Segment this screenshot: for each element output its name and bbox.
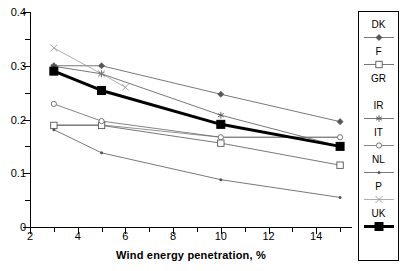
markers-F bbox=[51, 122, 344, 168]
data-point-open-square bbox=[375, 61, 381, 67]
legend-label: NL bbox=[372, 154, 385, 166]
series-DK bbox=[54, 66, 340, 122]
series-IT bbox=[54, 104, 340, 137]
legend-entry-GR[interactable]: GR bbox=[359, 73, 398, 98]
legend-swatch-F bbox=[360, 58, 398, 71]
legend-entry-DK[interactable]: DK bbox=[359, 19, 398, 44]
legend-label: DK bbox=[372, 19, 386, 31]
legend-swatch-P bbox=[360, 193, 398, 206]
markers-DK bbox=[51, 63, 343, 125]
data-point-diamond bbox=[375, 34, 381, 40]
legend-entry-F[interactable]: F bbox=[359, 46, 398, 71]
legend-label: P bbox=[375, 181, 382, 193]
legend-swatch-IR bbox=[360, 112, 398, 125]
legend-swatch-IT bbox=[360, 139, 398, 152]
legend-swatch-GR bbox=[360, 85, 398, 98]
data-point-dot bbox=[100, 151, 103, 154]
series-layer bbox=[0, 0, 403, 271]
data-point-dot bbox=[377, 171, 380, 174]
data-point-filled-square bbox=[336, 142, 344, 150]
legend-swatch-NL bbox=[360, 166, 398, 179]
legend-entry-NL[interactable]: NL bbox=[359, 154, 398, 179]
data-point-filled-square bbox=[50, 67, 58, 75]
legend-label: GR bbox=[371, 73, 386, 85]
data-point-open-circle bbox=[99, 119, 104, 124]
data-point-open-square bbox=[337, 162, 343, 168]
data-point-dot bbox=[339, 196, 342, 199]
chart-legend: DKFGRIRITNLPUK bbox=[358, 11, 399, 261]
legend-entry-IR[interactable]: IR bbox=[359, 100, 398, 125]
data-point-open-square bbox=[51, 122, 57, 128]
legend-swatch-UK bbox=[360, 220, 398, 233]
legend-entry-IT[interactable]: IT bbox=[359, 127, 398, 152]
legend-entry-UK[interactable]: UK bbox=[359, 208, 398, 233]
legend-label: F bbox=[375, 46, 381, 58]
legend-label: UK bbox=[372, 208, 386, 220]
data-point-filled-square bbox=[375, 223, 383, 231]
data-point-diamond bbox=[218, 91, 224, 97]
data-point-dot bbox=[219, 178, 222, 181]
data-point-diamond bbox=[337, 119, 343, 125]
data-point-filled-square bbox=[98, 86, 106, 94]
data-point-asterisk bbox=[218, 112, 224, 119]
x-axis-title: Wind energy penetration, % bbox=[30, 249, 352, 261]
data-point-diamond bbox=[98, 63, 104, 69]
markers-IR bbox=[51, 63, 343, 150]
data-point-open-square bbox=[218, 140, 224, 146]
data-point-open-circle bbox=[337, 135, 342, 140]
data-point-dot bbox=[52, 128, 55, 131]
series-F bbox=[54, 125, 340, 165]
data-point-open-circle bbox=[376, 143, 381, 148]
data-point-open-circle bbox=[51, 101, 56, 106]
legend-label: IR bbox=[374, 100, 384, 112]
legend-label: IT bbox=[374, 127, 383, 139]
legend-swatch-DK bbox=[360, 31, 398, 44]
data-point-open-circle bbox=[218, 135, 223, 140]
data-point-filled-square bbox=[217, 120, 225, 128]
data-point-cross bbox=[50, 45, 57, 52]
data-point-cross bbox=[122, 84, 129, 91]
chart-root: 00.10.20.30.42468101214 Wind energy pene… bbox=[0, 0, 403, 271]
legend-entry-P[interactable]: P bbox=[359, 181, 398, 206]
